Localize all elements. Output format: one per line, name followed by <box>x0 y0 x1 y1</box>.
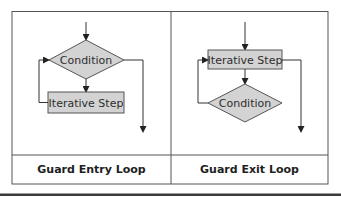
exit-arrow <box>282 60 301 131</box>
iterative-step-label: Iterative Step <box>208 54 283 67</box>
loop-comparison-figure: Condition Iterative Step Guard Entry Loo… <box>0 0 341 197</box>
condition-label: Condition <box>219 97 272 110</box>
condition-label: Condition <box>60 54 113 67</box>
guard-entry-loop-diagram: Condition Iterative Step <box>39 22 143 131</box>
exit-arrow <box>124 60 143 131</box>
loop-back-arrow <box>39 60 48 103</box>
caption-guard-exit-loop: Guard Exit Loop <box>200 163 299 176</box>
bottom-rule <box>0 194 341 197</box>
iterative-step-label: Iterative Step <box>49 97 124 110</box>
loop-back-arrow <box>198 60 208 103</box>
caption-guard-entry-loop: Guard Entry Loop <box>37 163 146 176</box>
guard-exit-loop-diagram: Iterative Step Condition <box>198 22 301 131</box>
